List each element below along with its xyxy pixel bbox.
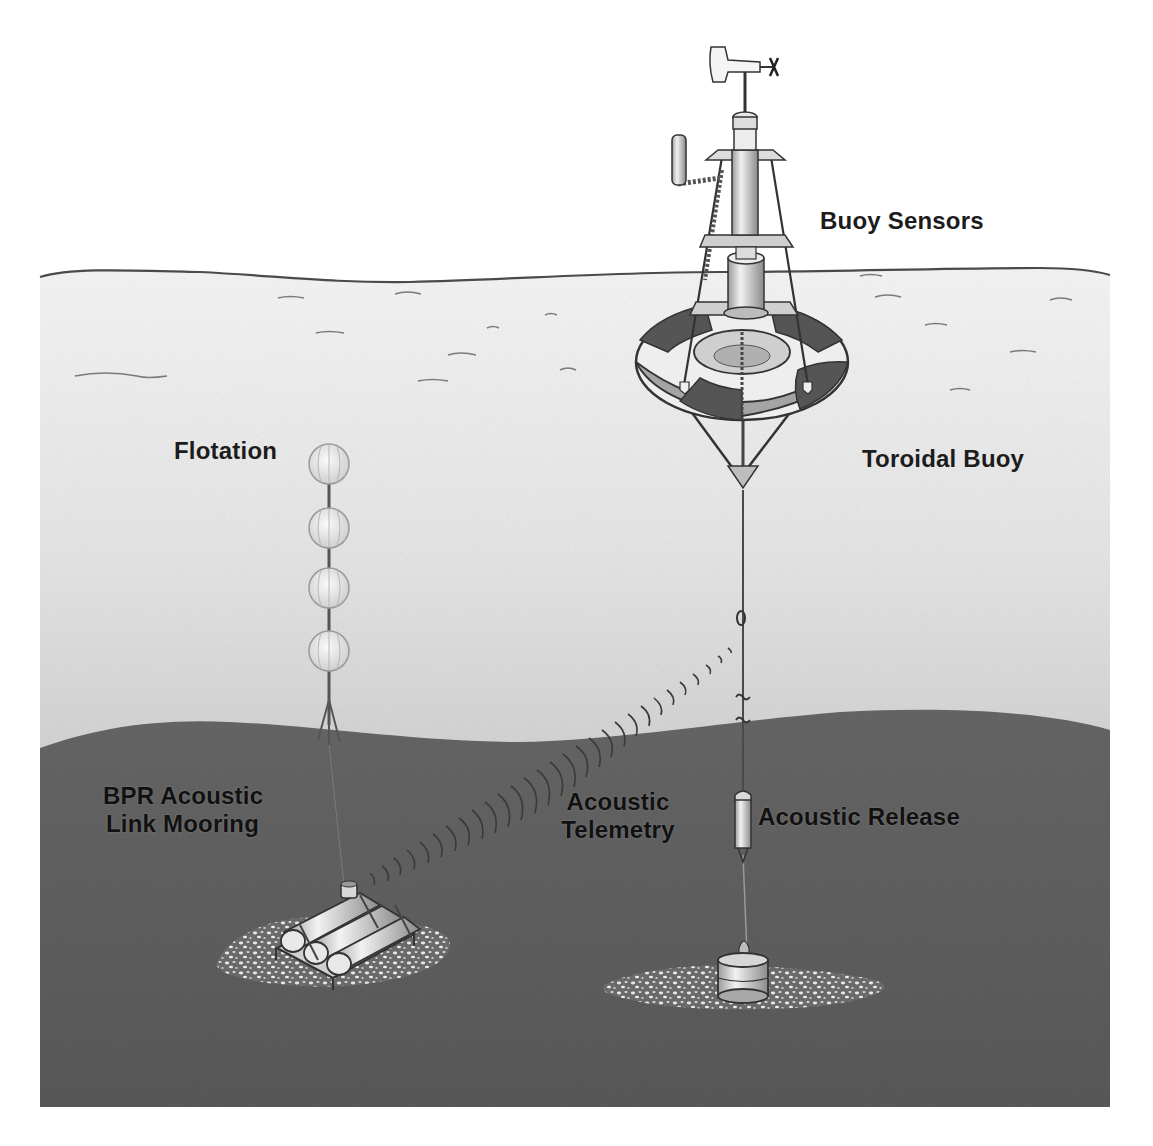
label-bpr-acoustic-link-mooring: BPR Acoustic Link Mooring bbox=[103, 782, 263, 838]
label-acoustic-release: Acoustic Release bbox=[758, 803, 960, 831]
diagram-canvas bbox=[0, 0, 1153, 1146]
label-flotation: Flotation bbox=[174, 437, 277, 465]
label-buoy-sensors: Buoy Sensors bbox=[820, 207, 984, 235]
label-telemetry-line-1: Acoustic bbox=[548, 788, 688, 816]
label-bpr-line-2: Link Mooring bbox=[106, 810, 263, 838]
seafloor bbox=[40, 710, 1110, 1107]
label-toroidal-buoy: Toroidal Buoy bbox=[862, 445, 1024, 473]
label-acoustic-telemetry: Acoustic Telemetry bbox=[548, 788, 688, 844]
label-bpr-line-1: BPR Acoustic bbox=[103, 782, 263, 810]
label-telemetry-line-2: Telemetry bbox=[548, 816, 688, 844]
